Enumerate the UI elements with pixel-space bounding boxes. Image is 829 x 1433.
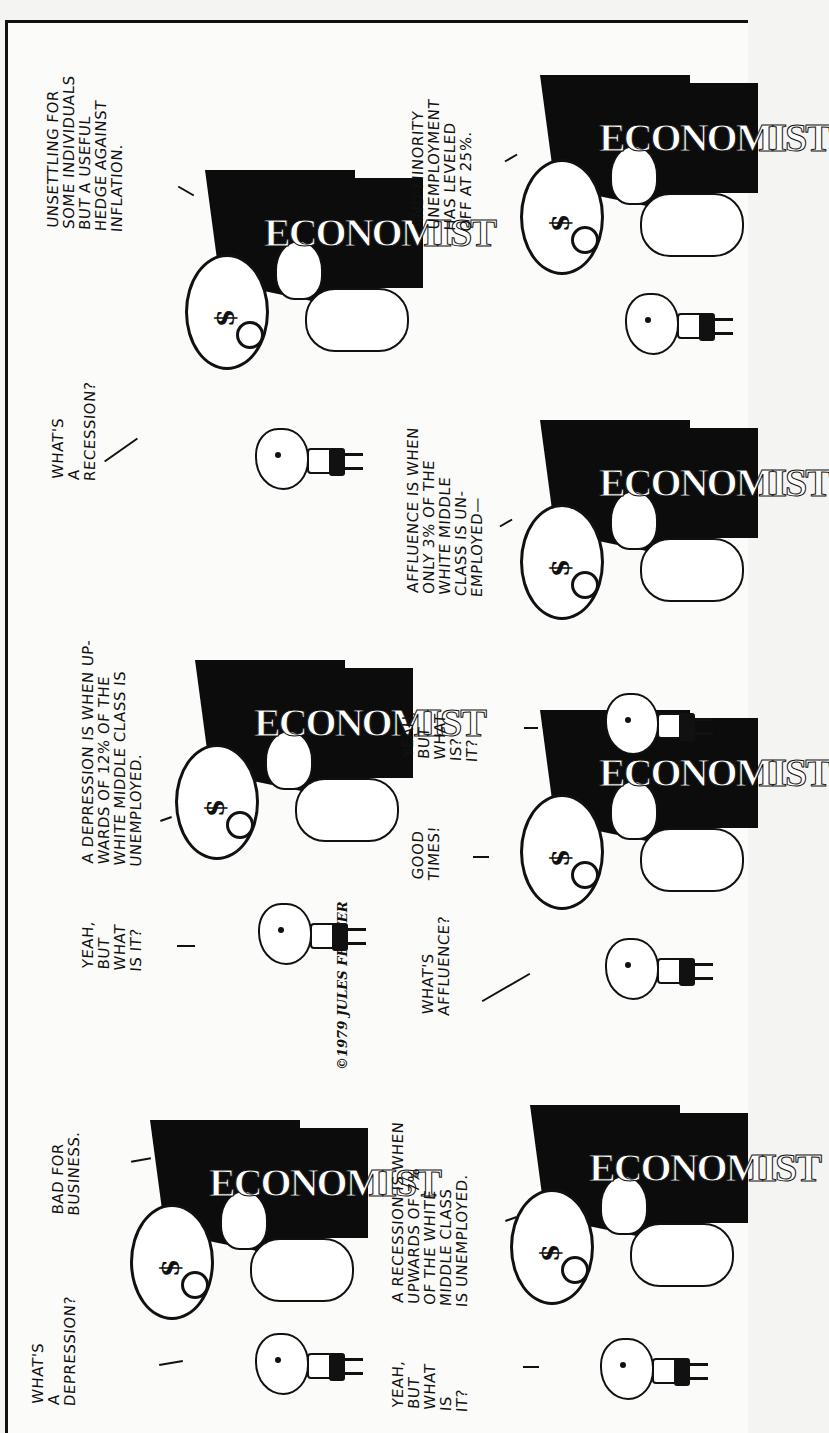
kid-leg [695, 732, 713, 735]
kid-figure [255, 1325, 365, 1405]
economist-desk-sign: ECONOMIST [660, 1113, 748, 1223]
speech-tick [523, 1366, 539, 1368]
kid-leg [695, 718, 713, 721]
kid-speech: WHAT'S AFFLUENCE? [420, 914, 452, 1016]
economist-speech: A DEPRESSION IS WHEN UP- WARDS OF 12% OF… [80, 639, 144, 867]
economist-speech: UNSETTLING FOR SOME INDIVIDUALS BUT A US… [45, 74, 125, 233]
kid-speech: WHAT'S A DEPRESSION? [30, 1293, 78, 1406]
kid-shorts [679, 958, 695, 986]
speech-tick [473, 856, 489, 858]
kid-head [625, 293, 679, 355]
economist-speech: AFFLUENCE IS WHEN ONLY 3% OF THE WHITE M… [405, 427, 485, 598]
kid-eye [275, 452, 281, 458]
kid-eye [278, 927, 284, 933]
comic-row-2: YEAH, BUT WHAT IS IT? A RECESSION IS WHE… [370, 0, 740, 1425]
kid-eye [275, 1357, 281, 1363]
kid-leg [345, 453, 363, 456]
monocle-icon [236, 321, 264, 349]
economist-arm [640, 538, 744, 602]
kid-shorts [329, 448, 345, 476]
kid-head [605, 938, 659, 1000]
kid-leg [348, 928, 366, 931]
economist-desk-sign: ECONOMIST [670, 83, 758, 193]
monocle-icon [571, 571, 599, 599]
economist-head: $ [185, 254, 269, 370]
comic-row-1: WHAT'S A DEPRESSION? BAD FOR BUSINESS. $… [0, 0, 370, 1425]
economist-figure: $ ECONOMIST [510, 1105, 750, 1305]
kid-speech: YEAH, BUT WHAT IS IT? [390, 1360, 470, 1413]
artist-signature: ©1979 JULES FEIFFER [335, 901, 350, 1070]
speech-tick [524, 727, 538, 729]
kid-eye [625, 962, 631, 968]
speech-tick [104, 438, 138, 463]
speech-tick [482, 973, 531, 1002]
kid-figure [600, 1330, 710, 1410]
economist-head: $ [510, 1189, 594, 1305]
dollar-sign-eye-icon: $ [210, 309, 240, 327]
economist-head: $ [175, 744, 259, 860]
economist-speech: A RECESSION IS WHEN UPWARDS OF 7% OF THE… [390, 1121, 470, 1308]
economist-arm [640, 193, 744, 257]
kid-shorts [329, 1353, 345, 1381]
kid-figure [605, 930, 715, 1010]
kid-speech: WHAT'S A RECESSION? [50, 379, 98, 482]
kid-eye [625, 717, 631, 723]
dollar-sign-eye-icon: $ [545, 849, 575, 867]
economist-figure: $ ECONOMIST [520, 75, 760, 275]
dollar-sign-eye-icon: $ [200, 799, 230, 817]
kid-head [258, 903, 312, 965]
kid-leg [690, 1377, 708, 1380]
economist-arm [250, 1238, 354, 1302]
monocle-icon [561, 1256, 589, 1284]
kid-figure [605, 685, 715, 765]
economist-speech: AND MINORITY UNEMPLOYMENT HAS LEVELED OF… [410, 97, 474, 232]
economist-speech: GOOD TIMES! [410, 824, 442, 881]
economist-head: $ [520, 159, 604, 275]
kid-shorts [699, 313, 715, 341]
economist-desk-sign: ECONOMIST [670, 428, 758, 538]
kid-leg [695, 963, 713, 966]
dollar-sign-eye-icon: $ [535, 1244, 565, 1262]
kid-leg [690, 1363, 708, 1366]
kid-leg [345, 467, 363, 470]
dollar-sign-eye-icon: $ [545, 214, 575, 232]
kid-head [600, 1338, 654, 1400]
monocle-icon [226, 811, 254, 839]
monocle-icon [571, 226, 599, 254]
economist-head: $ [130, 1204, 214, 1320]
kid-leg [715, 318, 733, 321]
economist-head: $ [520, 504, 604, 620]
kid-leg [345, 1358, 363, 1361]
kid-head [605, 693, 659, 755]
kid-figure [255, 420, 365, 500]
economist-head: $ [520, 794, 604, 910]
kid-head [255, 1333, 309, 1395]
monocle-icon [571, 861, 599, 889]
speech-tick [159, 1360, 183, 1366]
economist-arm [640, 828, 744, 892]
economist-figure: $ ECONOMIST [130, 1120, 370, 1320]
kid-leg [345, 1372, 363, 1375]
kid-eye [620, 1362, 626, 1368]
economist-figure: $ ECONOMIST [520, 420, 760, 620]
kid-leg [715, 332, 733, 335]
speech-tick [160, 816, 172, 822]
economist-arm [630, 1223, 734, 1287]
kid-eye [645, 317, 651, 323]
kid-shorts [679, 713, 695, 741]
economist-desk-sign: ECONOMIST [280, 1128, 368, 1238]
speech-tick [499, 519, 512, 528]
speech-tick [504, 154, 517, 163]
speech-tick [177, 945, 195, 947]
dollar-sign-eye-icon: $ [545, 559, 575, 577]
kid-head [255, 428, 309, 490]
kid-leg [695, 977, 713, 980]
kid-speech: YEAH, BUT WHAT IS IT? [80, 920, 144, 972]
kid-figure [258, 895, 368, 975]
kid-speech: YEAH, BUT WHAT IS? IT? [400, 710, 480, 763]
kid-figure [625, 285, 735, 365]
economist-speech: BAD FOR BUSINESS. [50, 1130, 82, 1216]
kid-shorts [674, 1358, 690, 1386]
kid-leg [348, 942, 366, 945]
